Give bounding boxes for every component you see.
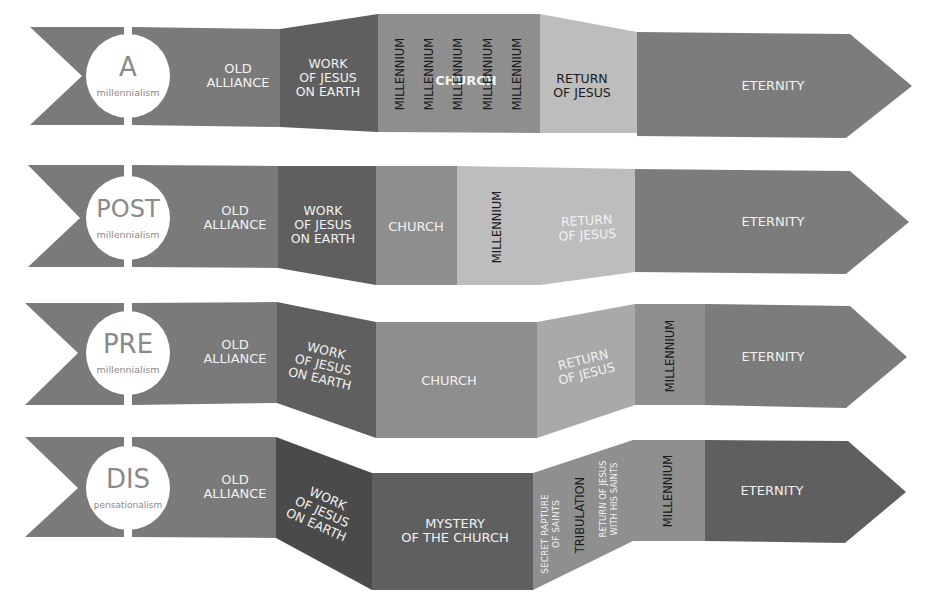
vertical-label: RETURN OF JESUS (598, 461, 608, 538)
segment-label-millennium-return: RETURNOF JESUS (557, 211, 616, 243)
vertical-label: MILLENNIUM (451, 38, 465, 110)
row-dis-pensationalism: OLDALLIANCEWORKOF JESUSON EARTHMYSTERYOF… (25, 436, 906, 590)
vertical-label: SECRET RAPTURE (540, 494, 550, 574)
badge-prefix: A (119, 52, 137, 82)
segment-eternity (705, 304, 907, 408)
vertical-label: MILLENNIUM (510, 38, 524, 110)
segment-label-eternity: ETERNITY (741, 483, 804, 498)
segment-label-church: CHURCH (388, 219, 444, 234)
vertical-label: MILLENNIUM (422, 38, 436, 110)
vertical-label: WITH HIS SAINTS (609, 462, 619, 535)
vertical-label: MILLENNIUM (490, 191, 504, 263)
badge-suffix: millennialism (96, 364, 159, 375)
segment-label-eternity: ETERNITY (742, 214, 805, 229)
vertical-label: MILLENNIUM (663, 320, 677, 392)
vertical-label: OF SAINTS (551, 500, 561, 548)
segment-label-eternity: ETERNITY (742, 78, 805, 93)
badge-suffix: pensationalism (94, 500, 162, 510)
row-post-millennialism: OLDALLIANCEWORKOF JESUSON EARTHCHURCHRET… (28, 165, 909, 285)
badge-prefix: PRE (103, 329, 153, 359)
badge-prefix: DIS (106, 464, 150, 494)
segment-label-return-of-jesus: RETURNOF JESUS (553, 70, 611, 99)
vertical-label: MILLENNIUM (481, 38, 495, 110)
vertical-label: TRIBULATION (573, 477, 587, 554)
segment-label-eternity: ETERNITY (742, 349, 805, 364)
row-pre-millennialism: OLDALLIANCEWORKOF JESUSON EARTHCHURCHRET… (25, 301, 907, 438)
badge-prefix: POST (96, 195, 160, 223)
row-a-millennialism: OLDALLIANCEWORKOF JESUSON EARTHCHURCHRET… (30, 14, 912, 138)
badge-suffix: millennialism (96, 229, 159, 240)
eschatology-diagram: OLDALLIANCEWORKOF JESUSON EARTHCHURCHRET… (0, 0, 933, 612)
segment-label-church: CHURCH (421, 373, 477, 388)
badge-suffix: millennialism (96, 87, 159, 98)
vertical-label: MILLENNIUM (393, 38, 407, 110)
segment-eternity (705, 440, 906, 543)
vertical-label: MILLENNIUM (661, 455, 675, 527)
